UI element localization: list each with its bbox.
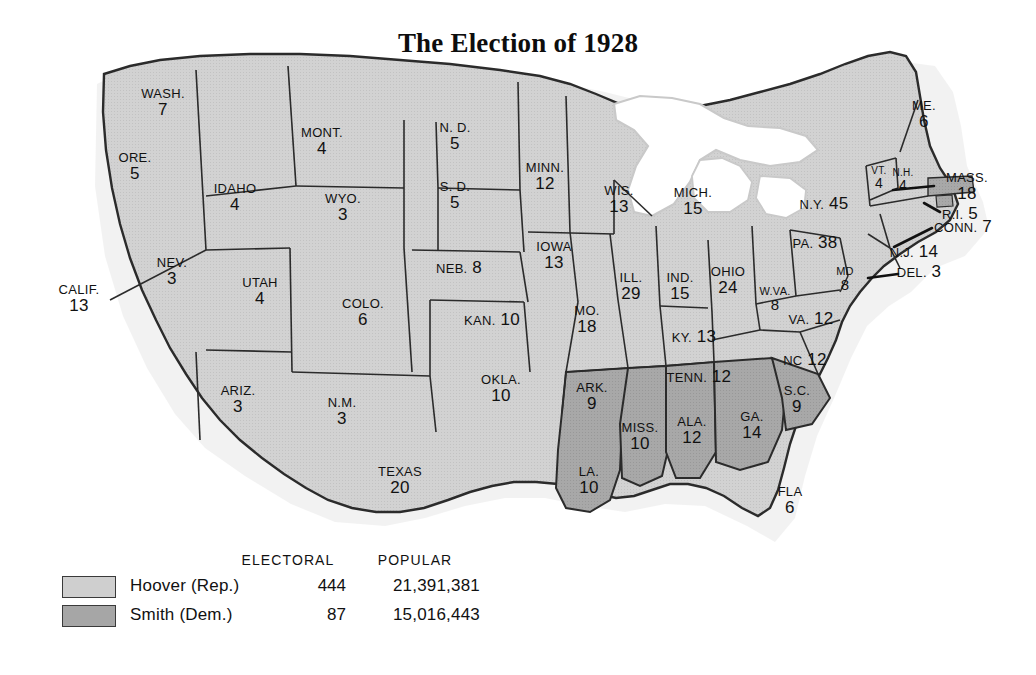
- legend-popular-smith: 15,016,443: [350, 605, 480, 625]
- state-electoral-votes-nh: 4: [892, 178, 913, 193]
- state-name-del: DEL.: [897, 265, 927, 280]
- state-electoral-votes-ill: 29: [620, 285, 643, 303]
- state-electoral-votes-nj: 14: [919, 242, 939, 261]
- state-name-nev: NEV.: [157, 256, 187, 270]
- state-name-fla: FLA: [778, 485, 803, 499]
- state-label-nj: N.J. 14: [890, 243, 939, 261]
- state-name-mo: MO.: [574, 304, 599, 318]
- legend-candidate-hoover: Hoover (Rep.): [130, 576, 239, 596]
- state-electoral-votes-ala: 12: [677, 429, 706, 447]
- state-electoral-votes-me: 6: [912, 113, 936, 131]
- state-name-mich: MICH.: [674, 186, 712, 200]
- state-label-iowa: IOWA13: [536, 240, 571, 271]
- legend-candidate-smith: Smith (Dem.): [130, 605, 233, 625]
- state-name-ill: ILL.: [620, 271, 643, 285]
- map-legend: ELECTORAL POPULAR Hoover (Rep.) 444 21,3…: [62, 552, 482, 632]
- state-electoral-votes-nm: 3: [328, 410, 357, 428]
- legend-row-smith: Smith (Dem.) 87 15,016,443: [62, 603, 482, 629]
- state-electoral-votes-ga: 14: [740, 424, 763, 442]
- state-electoral-votes-fla: 6: [778, 499, 803, 517]
- state-label-nm: N.M.3: [328, 396, 357, 427]
- state-label-ore: ORE.5: [119, 151, 152, 182]
- state-label-conn: CONN. 7: [934, 218, 992, 236]
- state-label-okla: OKLA.10: [481, 373, 521, 404]
- state-name-calif: CALIF.: [59, 283, 100, 297]
- state-electoral-votes-iowa: 13: [536, 254, 571, 272]
- state-label-vt: VT.4: [871, 166, 886, 191]
- state-electoral-votes-sc: 9: [784, 398, 810, 416]
- state-electoral-votes-calif: 13: [59, 297, 100, 315]
- state-label-ky: KY. 13: [672, 328, 716, 346]
- legend-popular-hoover: 21,391,381: [350, 576, 480, 596]
- state-label-md: MD8: [836, 266, 854, 293]
- state-name-ore: ORE.: [119, 151, 152, 165]
- page-title: The Election of 1928: [0, 28, 1036, 59]
- state-electoral-votes-kan: 10: [500, 310, 520, 329]
- state-label-mo: MO.18: [574, 304, 599, 335]
- state-electoral-votes-mich: 15: [674, 200, 712, 218]
- state-name-ohio: OHIO: [711, 265, 745, 279]
- state-electoral-votes-tenn: 12: [712, 367, 732, 386]
- state-electoral-votes-wis: 13: [604, 198, 633, 216]
- state-label-wis: WIS.13: [604, 184, 633, 215]
- state-electoral-votes-nc: 12: [807, 350, 827, 369]
- state-label-nd: N. D.5: [439, 121, 470, 152]
- state-label-wva: W.VA.8: [759, 286, 790, 313]
- state-electoral-votes-nev: 3: [157, 270, 187, 288]
- state-label-sd: S. D.5: [440, 180, 470, 211]
- state-electoral-votes-wva: 8: [759, 298, 790, 314]
- state-name-colo: COLO.: [342, 297, 384, 311]
- state-name-ark: ARK.: [576, 381, 608, 395]
- state-label-ny: N.Y. 45: [799, 195, 848, 213]
- state-label-mass: MASS.18: [946, 171, 988, 202]
- state-name-nj: N.J.: [890, 245, 914, 260]
- state-name-minn: MINN.: [526, 161, 564, 175]
- state-name-ny: N.Y.: [799, 197, 824, 212]
- state-name-mont: MONT.: [301, 126, 343, 140]
- state-name-la: LA.: [579, 465, 599, 479]
- election-map: The Election of 1928 WASH.7ORE.5CALIF.13…: [0, 0, 1036, 675]
- state-name-nd: N. D.: [439, 121, 470, 135]
- state-label-fla: FLA6: [778, 485, 803, 516]
- state-label-ariz: ARIZ.3: [221, 384, 256, 415]
- state-electoral-votes-pa: 38: [818, 233, 838, 252]
- state-name-ariz: ARIZ.: [221, 384, 256, 398]
- state-electoral-votes-ny: 45: [829, 194, 849, 213]
- state-label-me: ME.6: [912, 99, 936, 130]
- legend-electoral-hoover: 444: [230, 576, 346, 596]
- state-electoral-votes-mont: 4: [301, 140, 343, 158]
- state-electoral-votes-del: 3: [932, 262, 942, 281]
- state-name-okla: OKLA.: [481, 373, 521, 387]
- state-name-kan: KAN.: [464, 313, 496, 328]
- state-electoral-votes-nd: 5: [439, 135, 470, 153]
- state-label-kan: KAN. 10: [464, 311, 520, 329]
- state-name-idaho: IDAHO: [214, 182, 257, 196]
- state-label-nc: NC 12: [783, 351, 827, 369]
- state-electoral-votes-idaho: 4: [214, 196, 257, 214]
- state-name-iowa: IOWA: [536, 240, 571, 254]
- state-electoral-votes-wash: 7: [141, 101, 185, 119]
- state-label-ind: IND.15: [666, 271, 693, 302]
- state-label-utah: UTAH4: [242, 276, 278, 307]
- state-electoral-votes-vt: 4: [871, 176, 886, 191]
- state-name-wash: WASH.: [141, 87, 185, 101]
- state-label-del: DEL. 3: [897, 263, 942, 281]
- state-label-ark: ARK.9: [576, 381, 608, 412]
- state-label-colo: COLO.6: [342, 297, 384, 328]
- legend-row-hoover: Hoover (Rep.) 444 21,391,381: [62, 574, 482, 600]
- state-name-tenn: TENN.: [667, 370, 708, 385]
- state-electoral-votes-conn: 7: [982, 217, 992, 236]
- state-label-sc: S.C.9: [784, 384, 810, 415]
- state-label-va: VA. 12: [788, 310, 833, 328]
- state-electoral-votes-md: 8: [836, 278, 854, 294]
- legend-header-popular: POPULAR: [350, 552, 480, 568]
- state-label-minn: MINN.12: [526, 161, 564, 192]
- state-name-neb: NEB.: [436, 261, 468, 276]
- state-electoral-votes-mass: 18: [946, 185, 988, 203]
- state-name-sd: S. D.: [440, 180, 470, 194]
- state-electoral-votes-va: 12: [814, 309, 834, 328]
- state-electoral-votes-ore: 5: [119, 165, 152, 183]
- state-label-tenn: TENN. 12: [667, 368, 732, 386]
- legend-electoral-smith: 87: [230, 605, 346, 625]
- state-electoral-votes-minn: 12: [526, 175, 564, 193]
